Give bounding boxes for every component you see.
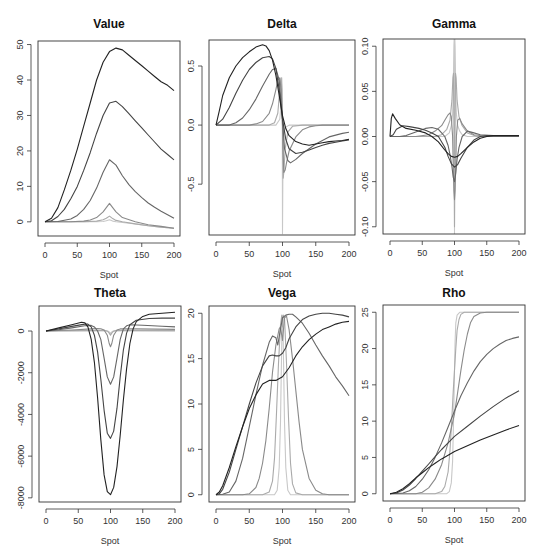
series-line bbox=[46, 312, 175, 494]
y-tick-label: -0.05 bbox=[360, 171, 370, 192]
series-line bbox=[390, 312, 519, 493]
x-tick-label: 50 bbox=[72, 250, 82, 260]
curves bbox=[216, 45, 349, 234]
x-tick-label: 0 bbox=[387, 248, 392, 258]
x-tick-label: 50 bbox=[417, 248, 427, 258]
y-tick-label: -0.10 bbox=[360, 217, 370, 238]
y-tick-label: 30 bbox=[15, 110, 25, 120]
x-tick-label: 0 bbox=[213, 249, 218, 259]
y-tick-label: 0 bbox=[16, 329, 26, 334]
x-axis-label: Spot bbox=[445, 268, 464, 278]
y-tick-label: 20 bbox=[360, 344, 370, 354]
x-tick-label: 150 bbox=[308, 249, 323, 259]
y-tick-label: 40 bbox=[15, 75, 25, 85]
x-axis-label: Spot bbox=[100, 270, 119, 280]
x-axis-label: Spot bbox=[101, 536, 120, 546]
x-tick-label: 200 bbox=[166, 250, 181, 260]
panel-title: Theta bbox=[94, 286, 126, 300]
y-tick-label: 20 bbox=[186, 308, 196, 318]
y-tick-label: 10 bbox=[186, 399, 196, 409]
x-tick-label: 150 bbox=[134, 250, 149, 260]
y-tick-label: 0.00 bbox=[360, 128, 370, 146]
curves bbox=[390, 39, 519, 234]
series-line bbox=[216, 322, 349, 494]
y-tick-label: 5 bbox=[186, 447, 196, 452]
x-tick-label: 150 bbox=[479, 248, 494, 258]
x-tick-label: 100 bbox=[275, 249, 290, 259]
y-tick-label: 15 bbox=[186, 354, 196, 364]
greeks-figure: Value 050100150200Spot01020304050 Delta … bbox=[0, 0, 545, 556]
x-tick-label: 150 bbox=[308, 516, 323, 526]
y-tick-label: 0.05 bbox=[360, 83, 370, 101]
series-line bbox=[45, 48, 174, 222]
y-tick-label: 15 bbox=[360, 380, 370, 390]
y-tick-label: -4000 bbox=[16, 403, 26, 426]
x-tick-label: 100 bbox=[102, 250, 117, 260]
panel-title: Rho bbox=[442, 286, 465, 300]
y-tick-label: -2000 bbox=[16, 361, 26, 384]
x-tick-label: 50 bbox=[73, 516, 83, 526]
x-tick-label: 100 bbox=[103, 516, 118, 526]
x-tick-label: 0 bbox=[43, 516, 48, 526]
panel-title: Gamma bbox=[432, 17, 476, 31]
x-tick-label: 200 bbox=[341, 249, 356, 259]
panel-gamma: Gamma 050100150200Spot-0.10-0.050.000.05… bbox=[360, 17, 527, 278]
x-tick-label: 150 bbox=[479, 515, 494, 525]
y-tick-label: 0.10 bbox=[360, 37, 370, 55]
panel-value: Value 050100150200Spot01020304050 bbox=[15, 17, 182, 280]
y-tick-label: -6000 bbox=[16, 445, 26, 468]
series-line bbox=[216, 314, 349, 495]
x-tick-label: 0 bbox=[213, 516, 218, 526]
panel-title: Delta bbox=[267, 17, 297, 31]
x-tick-label: 100 bbox=[447, 248, 462, 258]
panel-theta: Theta 050100150200Spot-8000-6000-4000-20… bbox=[16, 286, 183, 546]
x-tick-label: 200 bbox=[511, 515, 526, 525]
panel-delta: Delta 050100150200Spot-0.50.00.5 bbox=[186, 17, 357, 279]
x-tick-label: 50 bbox=[244, 249, 254, 259]
y-tick-label: 10 bbox=[360, 416, 370, 426]
y-tick-label: 20 bbox=[15, 146, 25, 156]
series-line bbox=[390, 312, 519, 493]
y-tick-label: 25 bbox=[360, 307, 370, 317]
x-tick-label: 200 bbox=[341, 516, 356, 526]
series-line bbox=[390, 312, 519, 493]
y-tick-label: 5 bbox=[360, 455, 370, 460]
series-line bbox=[216, 321, 349, 494]
x-tick-label: 200 bbox=[167, 516, 182, 526]
series-line bbox=[216, 316, 349, 495]
y-tick-label: 50 bbox=[15, 40, 25, 50]
y-tick-label: 0.5 bbox=[186, 60, 196, 73]
y-tick-label: -8000 bbox=[16, 486, 26, 509]
series-line bbox=[46, 318, 175, 438]
panel-vega: Vega 050100150200Spot05101520 bbox=[186, 286, 357, 546]
x-axis-label: Spot bbox=[445, 535, 464, 545]
plot-frame bbox=[38, 41, 180, 236]
panel-rho: Rho 050100150200Spot0510152025 bbox=[360, 286, 527, 545]
x-tick-label: 100 bbox=[275, 516, 290, 526]
panel-title: Vega bbox=[268, 286, 296, 300]
y-tick-label: -0.5 bbox=[186, 176, 196, 192]
y-tick-label: 0 bbox=[186, 492, 196, 497]
curves bbox=[216, 313, 349, 494]
x-tick-label: 50 bbox=[417, 515, 427, 525]
x-tick-label: 0 bbox=[42, 250, 47, 260]
x-tick-label: 200 bbox=[511, 248, 526, 258]
y-tick-label: 0 bbox=[15, 219, 25, 224]
x-tick-label: 100 bbox=[447, 515, 462, 525]
panel-title: Value bbox=[93, 17, 125, 31]
y-tick-label: 0.0 bbox=[186, 119, 196, 132]
series-line bbox=[216, 315, 349, 495]
x-tick-label: 0 bbox=[387, 515, 392, 525]
x-axis-label: Spot bbox=[273, 536, 292, 546]
curves bbox=[46, 312, 175, 494]
x-tick-label: 150 bbox=[135, 516, 150, 526]
x-tick-label: 50 bbox=[244, 516, 254, 526]
curves bbox=[390, 312, 519, 493]
x-axis-label: Spot bbox=[273, 269, 292, 279]
curves bbox=[45, 48, 174, 228]
y-tick-label: 0 bbox=[360, 491, 370, 496]
y-tick-label: 10 bbox=[15, 181, 25, 191]
series-line bbox=[390, 391, 519, 494]
